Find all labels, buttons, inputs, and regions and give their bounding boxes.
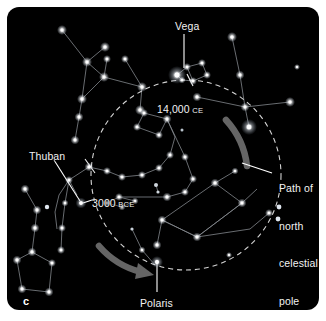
bottom-left-arrowhead	[135, 263, 154, 279]
label-path-of-north-celestial-pole: Path of north celestial pole	[279, 157, 318, 310]
star-chart-panel: Vega 14,000 CE Thuban 3000 BCE Path of n…	[7, 7, 319, 310]
path-label-line-3: celestial	[279, 257, 318, 270]
label-polaris: Polaris	[140, 297, 173, 310]
path-label-line-1: Path of	[279, 182, 318, 195]
label-14000-ce: 14,000 CE	[157, 103, 203, 118]
label-3000-value: 3000	[92, 197, 116, 209]
panel-letter: c	[23, 295, 29, 307]
label-14000-value: 14,000	[157, 103, 190, 115]
label-14000-era: CE	[190, 106, 204, 115]
path-label-line-4: pole	[279, 295, 318, 308]
bottom-left-arc-arrow-shaft	[99, 246, 141, 272]
label-vega: Vega	[175, 20, 199, 33]
label-3000-era: BCE	[116, 200, 135, 209]
label-thuban: Thuban	[29, 150, 65, 163]
precession-figure: Vega 14,000 CE Thuban 3000 BCE Path of n…	[0, 0, 326, 321]
label-3000-bce: 3000 BCE	[92, 197, 135, 212]
path-label-line-2: north	[279, 220, 318, 233]
